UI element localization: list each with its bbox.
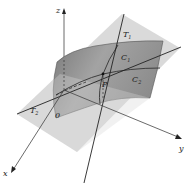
point-p-label: P (101, 80, 108, 89)
z-axis-arrowhead (62, 8, 66, 14)
y-axis-label: y (178, 144, 184, 153)
y-axis-arrowhead (175, 134, 182, 139)
point-p (102, 73, 105, 76)
z-axis-label: z (55, 6, 61, 15)
origin-label: 0 (55, 111, 60, 120)
x-axis-label: x (3, 169, 8, 178)
tangent-plane-diagram: z x y 0 P T1 C1 C2 T2 (0, 0, 190, 183)
